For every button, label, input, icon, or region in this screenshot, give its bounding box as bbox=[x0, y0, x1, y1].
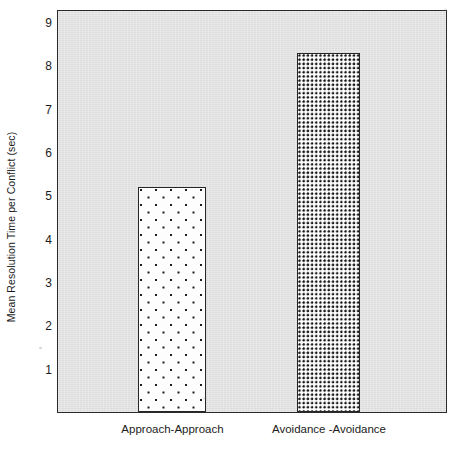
x-axis-category-label: Avoidance -Avoidance bbox=[229, 424, 429, 436]
bar-chart: Mean Resolution Time per Conflict (sec) … bbox=[0, 0, 458, 454]
plot-area bbox=[57, 10, 447, 413]
y-axis-tick-label: 3 bbox=[12, 277, 52, 289]
y-axis-tick-label: 1 bbox=[12, 364, 52, 376]
plot-grain-texture bbox=[58, 11, 446, 412]
y-axis-tick-label: 6 bbox=[12, 147, 52, 159]
y-axis-tick-labels: 987654321 bbox=[0, 0, 52, 454]
bar-2 bbox=[297, 53, 360, 413]
y-axis-tick-label: 8 bbox=[12, 60, 52, 72]
y-axis-tick-label: 7 bbox=[12, 104, 52, 116]
y-axis-tick-label: 2 bbox=[12, 320, 52, 332]
y-axis-tick-label: 9 bbox=[12, 17, 52, 29]
y-axis-tick-label: 4 bbox=[12, 234, 52, 246]
bar-1 bbox=[138, 187, 206, 412]
y-axis-tick-label: 5 bbox=[12, 190, 52, 202]
